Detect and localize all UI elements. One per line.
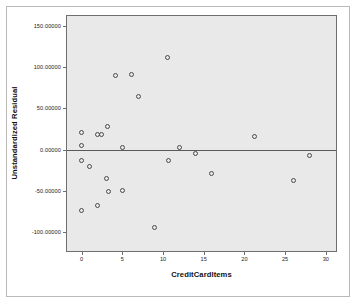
y-axis-tick-label: 50.00000: [37, 105, 61, 111]
x-axis-tick-label: 0: [80, 256, 83, 262]
scatter-point: [136, 94, 141, 99]
x-axis-tick: [204, 251, 205, 255]
scatter-point: [291, 178, 296, 183]
y-axis-tick-label: 0.00000: [40, 147, 61, 153]
y-axis-tick: [63, 108, 67, 109]
scatter-point: [120, 145, 125, 150]
x-axis-tick: [244, 251, 245, 255]
scatter-point: [120, 188, 125, 193]
zero-reference-line: [67, 150, 336, 151]
scatter-point: [79, 208, 84, 213]
y-axis-tick-label: -100.00000: [32, 229, 61, 235]
y-axis-tick: [63, 191, 67, 192]
scatter-point: [106, 189, 111, 194]
x-axis-tick-label: 10: [160, 256, 166, 262]
scatter-point: [105, 124, 110, 129]
plot-area: 150.00000100.0000050.000000.00000-50.000…: [67, 16, 336, 251]
y-axis-title: Unstandardized Residual: [10, 86, 19, 179]
x-axis-tick-label: 5: [121, 256, 124, 262]
y-axis-tick-label: -50.00000: [35, 188, 61, 194]
scatter-point: [79, 143, 84, 148]
x-axis-title: CreditCardItems: [66, 270, 337, 279]
y-axis-tick: [63, 232, 67, 233]
x-axis-tick: [285, 251, 286, 255]
x-axis-tick: [326, 251, 327, 255]
x-axis-tick-label: 20: [241, 256, 247, 262]
y-axis-tick: [63, 26, 67, 27]
plot-panel: 150.00000100.0000050.000000.00000-50.000…: [66, 15, 337, 252]
scatter-point: [95, 203, 100, 208]
scatter-point: [209, 171, 214, 176]
y-axis-tick-label: 150.00000: [34, 23, 61, 29]
x-axis-tick-label: 30: [323, 256, 329, 262]
x-axis-tick-label: 25: [282, 256, 288, 262]
scatter-point: [177, 145, 182, 150]
scatter-point: [193, 151, 198, 156]
scatter-point: [165, 55, 170, 60]
scatter-point: [79, 158, 84, 163]
x-axis-tick: [122, 251, 123, 255]
y-axis-tick: [63, 67, 67, 68]
scatter-point: [87, 164, 92, 169]
scatter-point: [113, 73, 118, 78]
scatter-point: [307, 153, 312, 158]
scatter-point: [129, 72, 134, 77]
y-axis-tick-label: 100.00000: [34, 64, 61, 70]
scatter-point: [252, 134, 257, 139]
scatter-point: [152, 225, 157, 230]
scatter-point: [104, 176, 109, 181]
x-axis-tick: [82, 251, 83, 255]
x-axis-tick-label: 15: [201, 256, 207, 262]
scatter-point: [99, 132, 104, 137]
x-axis-tick: [163, 251, 164, 255]
scatter-point: [79, 130, 84, 135]
scatter-point: [166, 158, 171, 163]
chart-screenshot: 150.00000100.0000050.000000.00000-50.000…: [0, 0, 357, 304]
